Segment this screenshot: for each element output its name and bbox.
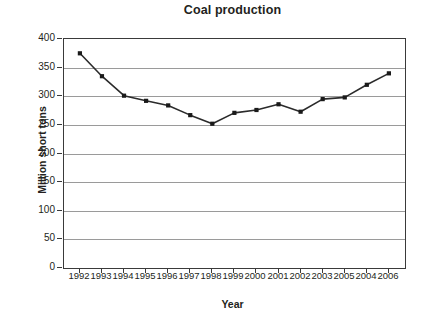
data-point-marker <box>254 108 258 112</box>
y-tick-label: 150 <box>11 176 55 186</box>
y-tick-mark <box>57 238 62 239</box>
chart-figure: Coal production Million short tons Year … <box>0 0 431 320</box>
y-tick-mark <box>57 38 62 39</box>
data-point-marker <box>387 71 391 75</box>
y-tick-mark <box>57 210 62 211</box>
y-tick-label: 250 <box>11 119 55 129</box>
data-point-marker <box>144 99 148 103</box>
y-tick-label: 100 <box>11 205 55 215</box>
data-point-marker <box>299 110 303 114</box>
y-tick-label: 50 <box>11 233 55 243</box>
line-series <box>64 39 405 268</box>
y-tick-label: 200 <box>11 148 55 158</box>
data-point-marker <box>321 97 325 101</box>
data-point-marker <box>78 51 82 55</box>
y-tick-mark <box>57 181 62 182</box>
data-point-marker <box>122 94 126 98</box>
y-tick-mark <box>57 153 62 154</box>
data-point-marker <box>100 74 104 78</box>
data-point-marker <box>188 113 192 117</box>
y-tick-mark <box>57 67 62 68</box>
data-point-marker <box>365 83 369 87</box>
x-tick-label: 2006 <box>373 271 403 281</box>
y-tick-mark <box>57 124 62 125</box>
data-point-marker <box>166 103 170 107</box>
y-tick-label: 0 <box>11 262 55 272</box>
y-tick-mark <box>57 95 62 96</box>
data-point-marker <box>210 122 214 126</box>
y-tick-mark <box>57 267 62 268</box>
x-axis-title: Year <box>60 298 405 310</box>
plot-area <box>63 38 406 269</box>
data-point-marker <box>343 95 347 99</box>
page-title: Coal production <box>60 3 405 17</box>
data-point-marker <box>276 102 280 106</box>
y-tick-label: 300 <box>11 90 55 100</box>
y-tick-label: 400 <box>11 33 55 43</box>
data-point-marker <box>232 111 236 115</box>
y-tick-label: 350 <box>11 62 55 72</box>
